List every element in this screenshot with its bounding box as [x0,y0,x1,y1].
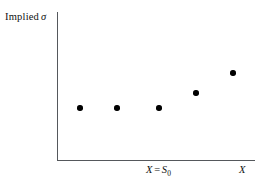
y-axis-label: Impliedσ [5,12,46,23]
data-point [156,105,161,110]
data-point [230,70,235,75]
equals-sign: = [153,164,162,175]
sigma-symbol: σ [39,11,46,22]
x-axis-label: X [239,165,246,176]
y-axis-label-prefix: Implied [5,11,39,22]
data-point [193,90,198,95]
data-point [114,105,119,110]
data-point [77,105,82,110]
x-axis-strike-label: X=S0 [146,165,171,176]
chart-axes [0,0,261,189]
spot-subscript: 0 [167,169,171,178]
strike-variable: X [146,164,153,175]
implied-volatility-chart: Impliedσ X=S0 X [0,0,261,189]
